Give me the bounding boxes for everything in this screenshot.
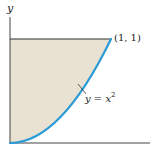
y-axis-label: y (7, 3, 13, 14)
curve-label: y = x2 (85, 92, 116, 104)
point-label-1-1: (1, 1) (114, 33, 141, 43)
shaded-region (10, 39, 111, 143)
curve-label-eq: = (91, 93, 106, 104)
curve-label-exponent: 2 (111, 91, 115, 99)
figure: y (1, 1) y = x2 (0, 0, 150, 149)
plot-canvas (0, 0, 150, 149)
